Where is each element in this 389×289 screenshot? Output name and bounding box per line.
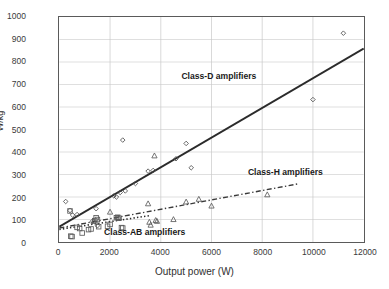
y-tick-label: 200 (0, 193, 26, 202)
data-point (184, 141, 189, 146)
data-point (148, 222, 153, 227)
data-point (189, 165, 194, 170)
data-point (75, 212, 80, 217)
data-point (196, 196, 201, 201)
data-point (151, 168, 156, 173)
y-tick-label: 300 (0, 171, 26, 180)
data-point (80, 231, 85, 236)
data-point (94, 206, 99, 211)
data-points (59, 17, 364, 242)
series-diamond (63, 31, 345, 228)
data-point (311, 97, 316, 102)
y-tick-label: 800 (0, 57, 26, 66)
data-point (265, 192, 270, 197)
x-tick-label: 6000 (202, 248, 221, 257)
data-point (94, 215, 99, 220)
x-tick-label: 4000 (151, 248, 170, 257)
plot-area: Class-D amplifiersClass-H amplifiersClas… (58, 16, 365, 243)
data-point (174, 156, 179, 161)
data-point (184, 199, 189, 204)
data-point (171, 217, 176, 222)
data-point (209, 203, 214, 208)
data-point (123, 189, 128, 194)
data-point (146, 169, 151, 174)
data-point (63, 199, 68, 204)
y-tick-label: 100 (0, 216, 26, 225)
data-point (145, 201, 150, 206)
y-tick-label: 700 (0, 80, 26, 89)
x-axis-title: Output power (W) (0, 266, 389, 277)
data-point (118, 190, 123, 195)
x-tick-label: 2000 (100, 248, 119, 257)
y-tick-label: 1000 (0, 12, 26, 21)
data-point (341, 31, 346, 36)
y-tick-label: 900 (0, 34, 26, 43)
x-tick-label: 10000 (302, 248, 326, 257)
chart-root: W/kg Output power (W) 010020030040050060… (0, 0, 389, 289)
y-tick-label: 400 (0, 148, 26, 157)
y-tick-label: 600 (0, 103, 26, 112)
x-tick-label: 0 (56, 248, 61, 257)
data-point (120, 138, 125, 143)
y-tick-label: 500 (0, 125, 26, 134)
data-point (133, 181, 138, 186)
y-tick-label: 0 (0, 239, 26, 248)
data-point (152, 153, 157, 158)
data-point (107, 209, 112, 214)
x-tick-label: 8000 (253, 248, 272, 257)
x-tick-label: 12000 (353, 248, 377, 257)
